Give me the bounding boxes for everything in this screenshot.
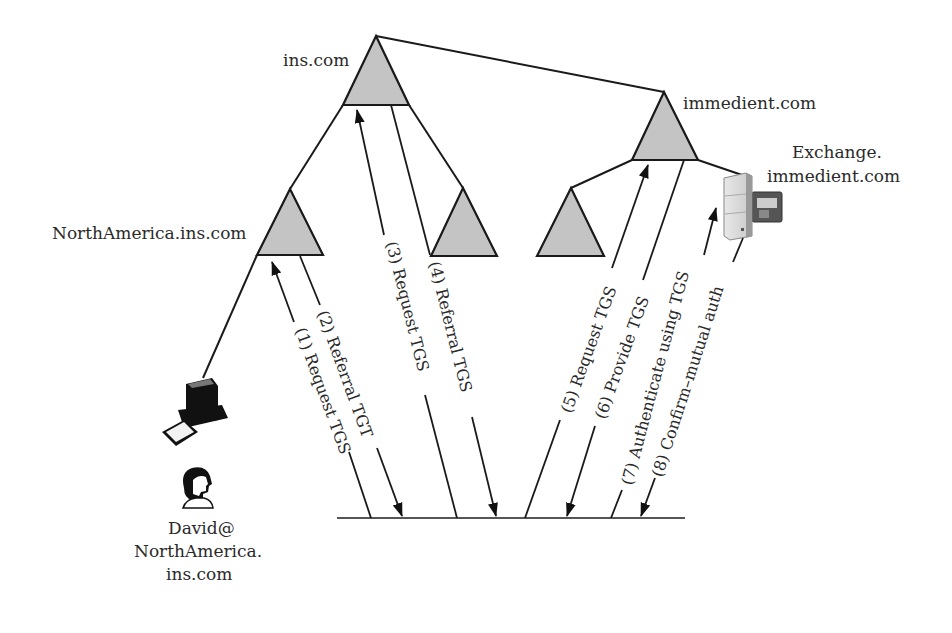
realm-immedient-child-triangle [537, 188, 604, 256]
edge-northamerica-to-client [203, 255, 257, 378]
flow-3-label: (3) Request TGS [382, 239, 433, 373]
edge-ins-to-child [409, 105, 463, 188]
realm-ins-label: ins.com [283, 50, 349, 70]
realm-immedient-label: immedient.com [683, 93, 816, 113]
edge-immedient-to-child [571, 160, 632, 188]
realm-ins-child-triangle [431, 188, 497, 256]
client-label-line3: ins.com [166, 564, 232, 584]
client-label-line1: David@ [168, 518, 235, 538]
edge-ins-to-northamerica [290, 105, 343, 189]
realm-ins-triangle [343, 36, 409, 105]
flow-4-label: (4) Referral TGS [425, 259, 476, 394]
edge-ins-to-immedient [376, 36, 664, 92]
server-label-line2: immedient.com [767, 166, 900, 186]
edge-immedient-to-server [698, 160, 742, 175]
realm-northamerica-triangle [257, 189, 323, 255]
server-label-line1: Exchange. [792, 142, 882, 162]
client-label-line2: NorthAmerica. [134, 541, 262, 561]
kerberos-referral-diagram: ins.com NorthAmerica.ins.com immedient.c… [0, 0, 952, 633]
realm-northamerica-label: NorthAmerica.ins.com [52, 223, 247, 243]
user-icon [183, 467, 213, 508]
computer-icon [162, 378, 228, 446]
